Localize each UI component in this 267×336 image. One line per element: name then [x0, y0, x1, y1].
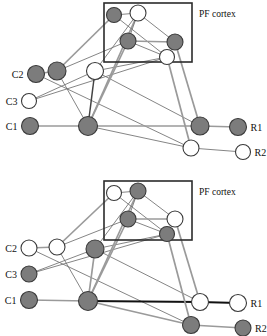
node-p3[interactable] — [120, 33, 136, 49]
network-diagram: PF cortexC2C3C1R1R2 PF cortexC2C3C1R1R2 — [0, 0, 267, 336]
edge-p5-o2 — [167, 57, 191, 148]
node-label-c1: C1 — [6, 121, 18, 132]
node-o1[interactable] — [192, 294, 209, 311]
panel-top: PF cortexC2C3C1R1R2 — [0, 0, 267, 168]
pf-cortex-label: PF cortex — [199, 187, 236, 197]
edge-h3-o1 — [88, 301, 200, 302]
node-p3[interactable] — [120, 211, 136, 227]
panel-bottom-canvas: PF cortexC2C3C1R1R2 — [0, 168, 267, 336]
node-p2[interactable] — [130, 5, 146, 21]
node-label-c3: C3 — [5, 269, 17, 280]
edge-c2-o2 — [36, 74, 191, 148]
node-label-c3: C3 — [6, 96, 18, 107]
node-p2[interactable] — [130, 183, 146, 199]
node-c2[interactable] — [28, 66, 45, 83]
panel-bottom: PF cortexC2C3C1R1R2 — [0, 168, 267, 336]
node-p1[interactable] — [107, 186, 122, 201]
node-h1[interactable] — [49, 239, 65, 255]
node-r1[interactable] — [230, 295, 247, 312]
node-c2[interactable] — [21, 240, 37, 256]
node-label-r2: R2 — [255, 147, 267, 158]
edge-p4-o1 — [175, 42, 200, 126]
node-c1[interactable] — [21, 292, 38, 309]
node-label-c2: C2 — [5, 243, 17, 254]
node-label-c1: C1 — [5, 295, 17, 306]
node-p5[interactable] — [160, 227, 175, 242]
node-h1[interactable] — [48, 62, 66, 80]
edge-h2-o1 — [95, 249, 200, 302]
node-o2[interactable] — [183, 317, 200, 334]
node-o2[interactable] — [183, 140, 199, 156]
edge-c2-o2 — [29, 248, 191, 325]
node-label-layer: C2C3C1R1R2 — [5, 243, 267, 334]
node-label-r2: R2 — [255, 323, 267, 334]
edge-layer — [29, 13, 243, 152]
node-r1[interactable] — [230, 119, 247, 136]
edge-layer — [29, 191, 243, 328]
node-layer — [21, 183, 252, 336]
node-o1[interactable] — [191, 117, 209, 135]
node-c3[interactable] — [22, 94, 37, 109]
node-p4[interactable] — [167, 34, 183, 50]
node-r2[interactable] — [236, 145, 251, 160]
node-h2[interactable] — [86, 240, 104, 258]
node-h3[interactable] — [79, 117, 98, 136]
node-p1[interactable] — [107, 8, 122, 23]
node-r2[interactable] — [235, 320, 251, 336]
node-label-r1: R1 — [251, 122, 263, 133]
edge-h1-p1 — [57, 193, 114, 247]
panel-top-canvas: PF cortexC2C3C1R1R2 — [0, 0, 267, 168]
node-c3[interactable] — [21, 266, 37, 282]
node-label-c2: C2 — [12, 69, 24, 80]
edge-p4-o1 — [175, 219, 200, 302]
edge-h3-o2 — [88, 301, 191, 325]
node-label-r1: R1 — [251, 298, 263, 309]
node-label-layer: C2C3C1R1R2 — [6, 69, 266, 158]
node-p4[interactable] — [167, 211, 183, 227]
pf-cortex-label: PF cortex — [199, 9, 236, 19]
node-h3[interactable] — [79, 292, 98, 311]
edge-h3-o2 — [88, 126, 191, 148]
node-h2[interactable] — [87, 63, 104, 80]
edge-p5-o2 — [167, 234, 191, 325]
node-c1[interactable] — [22, 118, 39, 135]
node-p5[interactable] — [160, 50, 175, 65]
edge-h2-p5 — [95, 234, 167, 249]
